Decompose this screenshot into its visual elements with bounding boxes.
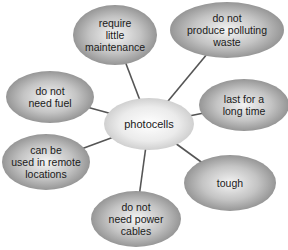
center-node: photocells (104, 98, 194, 150)
node-label-line: can be (30, 144, 62, 156)
node-label-line: waste (212, 36, 241, 48)
node-label-line: cables (121, 225, 151, 237)
node-remote: can beused in remotelocations (2, 134, 90, 190)
node-label-line: used in remote (11, 156, 81, 168)
node-tough: tough (184, 155, 276, 211)
spider-diagram: requirelittlemaintenancedo notproduce po… (0, 0, 288, 250)
node-label-line: need power (109, 213, 164, 225)
node-label-line: tough (217, 177, 243, 189)
node-label-line: produce polluting (187, 24, 267, 36)
node-label-line: do not (212, 12, 241, 24)
node-label-line: locations (25, 168, 66, 180)
node-label-line: last for a (224, 93, 264, 105)
node-label-line: need fuel (28, 97, 71, 109)
node-label-line: do not (35, 85, 64, 97)
node-power-cables: do notneed powercables (91, 191, 181, 247)
node-maintenance: requirelittlemaintenance (73, 5, 157, 65)
node-label-line: little (106, 29, 125, 41)
node-polluting: do notproduce pollutingwaste (170, 2, 284, 58)
node-label-line: long time (223, 105, 266, 117)
node-fuel: do notneed fuel (6, 71, 94, 123)
center-label: photocells (124, 118, 174, 130)
node-label-line: require (99, 17, 132, 29)
node-label-line: do not (121, 201, 150, 213)
node-label-line: maintenance (85, 41, 145, 53)
node-long-time: last for along time (199, 79, 288, 131)
